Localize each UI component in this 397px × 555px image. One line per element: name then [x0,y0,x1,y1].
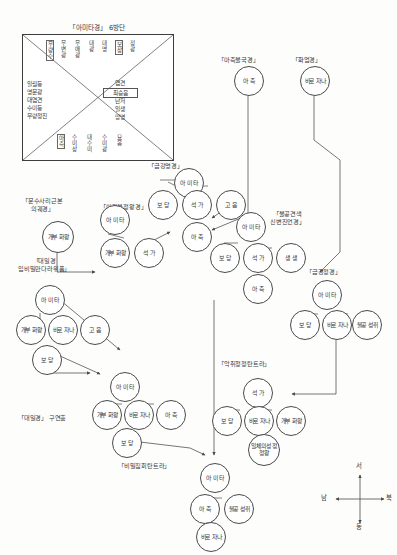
sutra-label-geumgang-jeonggyeong: 「금강정경」 [306,268,341,276]
node-n-bodang-6: 보 당 [212,406,242,436]
sutra-label-bimil-jiphoe: 「비밀집회탄트라」 [118,462,170,470]
mandala-cell-bottom-0: 아촉 [57,134,65,149]
sutra-label-bulgonggyeonsaek: 「불공견색 신변진언경」 [270,210,305,227]
node-n-ilche: 일체의성 정정왕 [248,434,280,466]
node-n-achok-top: 아 촉 [234,66,264,96]
sutra-label-hwaeomgyeong: 「화엄경」 [292,56,321,64]
node-n-gaebu-hwawang-5: 개부 화왕 [276,406,306,436]
compass-label-left: 남 [321,493,327,502]
compass-axes [330,468,390,530]
mandala-left-0: 일월등 [27,81,42,88]
node-n-bodang-3: 보 당 [290,310,320,340]
mandala-cell-bottom-3: 수미광 [101,134,107,152]
mandala-cell-bottom-2: 대수미 [86,134,92,152]
sutra-label-akchwi-cheongjeong: 「악취청정탄트라」 [218,360,270,368]
node-n-seokga-3: 석 가 [243,243,273,273]
node-n-birochana-5: 비로 자나 [244,406,274,436]
mandala-right-1: 일생 [103,106,137,113]
mandala-left-2: 대염견 [27,97,42,104]
mandala-left-1: 명문광 [27,89,42,96]
node-n-birochana-top: 비로 자나 [300,66,330,96]
sutra-label-munsusari-geunbon: 「문수사리근본 의궤경」 [22,197,63,214]
node-n-birochana-3: 비로 자나 [48,315,78,345]
node-n-achok-2: 아 촉 [243,274,273,304]
compass-label-top: 서 [356,461,362,470]
mandala-right-boxed: 최승음 [103,88,138,98]
sutra-label-achokbulgukgyeong: 「아촉불국경」 [218,56,259,64]
mandala-cell-top-1: 무변광 [60,40,66,58]
node-n-amita-6: 아 미 타 [110,372,140,402]
node-n-saengsaeng: 생 생 [276,243,306,273]
node-n-achok-4: 아 촉 [190,494,220,524]
node-n-achok-1: 아 촉 [182,222,212,252]
sutra-label-geumgang-myeonggyeong: 「금강명경」 [148,162,183,170]
node-n-birochana-2: 비로 자나 [322,310,352,340]
node-n-amita-4: 아 미 타 [312,280,342,310]
compass-rose: 서 동 남 북 [330,468,390,530]
node-n-bodang-1: 보 당 [148,190,178,220]
node-n-birochana-6: 비로 자나 [196,522,226,552]
node-n-goeum-2: 고 음 [80,315,110,345]
node-n-bulgong-1: 불공 성취 [352,310,382,340]
mandala-square [22,34,174,161]
sutra-label-daeilgyeong-ipbimil: 「대일경 입비밀만다라위품」 [18,257,70,274]
compass-label-right: 북 [386,493,392,502]
node-n-achok-3: 아 촉 [156,400,186,430]
node-n-birochana-4: 비로 자나 [124,400,154,430]
mandala-title: 「아미타경」 6방단 [22,22,172,32]
sutra-label-daeilgyeong-guyeonhum: 「대일경」 구연훔 [18,414,66,422]
mandala-cell-top-0: 무량수 [46,40,54,61]
node-n-gaebu-hwawang-2: 개부 화왕 [100,238,130,268]
mandala-cell-bottom-1: 수미상 [71,134,77,152]
node-n-amita-5: 아 미 타 [35,285,65,315]
node-n-amita-7: 아 미 타 [200,463,230,493]
mandala-right-0: 난저 [103,98,137,105]
node-n-amita-3: 아 미 타 [236,212,266,242]
node-n-gaebu-hwawang-1: 개부 화왕 [42,221,74,253]
mandala-cell-top-4: 대명 [101,40,107,52]
mandala-left-4: 무량정진 [27,113,47,120]
node-n-seokga-2: 석 가 [134,238,164,268]
node-n-bodang-2: 보 당 [210,243,240,273]
mandala-cell-top-5: 보상 [115,40,123,55]
mandala-cell-top-3: 대광 [88,40,94,52]
mandala-right-2: 망명 [103,114,137,121]
mandala-cell-top-6: 정광 [129,40,135,52]
node-n-gaebu-hwawang-4: 개부 화왕 [92,400,122,430]
node-n-amita-2: 아 미 타 [100,205,130,235]
node-n-seokga-4: 석 가 [243,378,273,408]
node-n-gaebu-hwawang-3: 개부 화왕 [16,315,46,345]
compass-label-bottom: 동 [356,522,362,531]
node-n-seokga-1: 석 가 [182,190,212,220]
mandala-left-3: 수미등 [27,105,42,112]
node-n-bodang-4: 보 당 [32,345,62,375]
node-n-bulgong-2: 불공 성취 [224,494,254,524]
mandala-cell-bottom-4: 묘음 [116,134,122,146]
diagram-sheet: 「아미타경」 6방단 무량수 무변광 무애광 대광 대명 보상 정광 일월등 명… [0,0,397,555]
node-n-bodang-5: 보 당 [112,428,142,458]
mandala-right-title: 염견 [103,80,137,87]
mandala-cell-top-2: 무애광 [74,40,80,58]
